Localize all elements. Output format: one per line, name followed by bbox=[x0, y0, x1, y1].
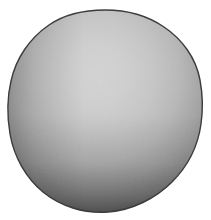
sphere-figure bbox=[0, 0, 211, 220]
image-canvas: Photograph of a matte gray sphere on a w… bbox=[0, 0, 211, 220]
